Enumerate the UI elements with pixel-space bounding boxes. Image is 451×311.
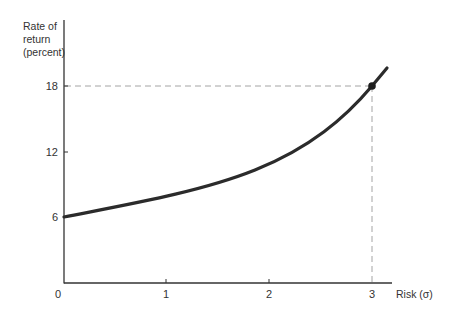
- y-axis-title-line-3: (percent): [23, 46, 65, 59]
- chart-canvas: [0, 0, 451, 311]
- risk-return-curve: [64, 68, 387, 217]
- y-tick-label-12: 12: [28, 146, 58, 159]
- y-tick-label-6: 6: [28, 211, 58, 224]
- x-tick-label-1: 1: [156, 288, 176, 301]
- x-axis-title: Risk (σ): [396, 288, 433, 301]
- y-axis-title: Rate of return (percent): [23, 20, 65, 59]
- highlight-point: [368, 82, 376, 90]
- origin-label: 0: [48, 288, 68, 301]
- x-tick-label-3: 3: [362, 288, 382, 301]
- x-tick-label-2: 2: [259, 288, 279, 301]
- y-tick-label-18: 18: [28, 80, 58, 93]
- y-axis-title-line-2: return: [23, 33, 65, 46]
- y-axis-title-line-1: Rate of: [23, 20, 65, 33]
